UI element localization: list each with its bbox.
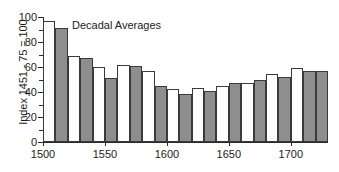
bar-1650 xyxy=(229,83,241,142)
bar-1690 xyxy=(278,77,290,142)
chart-annotation: Decadal Averages xyxy=(72,19,161,31)
bar-1560 xyxy=(117,65,129,143)
bar-1610 xyxy=(179,94,191,142)
x-tick-1550 xyxy=(105,142,106,146)
x-tick-label-1600: 1600 xyxy=(155,148,179,160)
plot-area: 020406080100 15001550160016501700 xyxy=(43,17,328,142)
bar-1530 xyxy=(80,58,92,142)
x-tick-1600 xyxy=(167,142,168,146)
bar-1510 xyxy=(55,28,67,142)
x-tick-label-1500: 1500 xyxy=(31,148,55,160)
bar-1570 xyxy=(130,66,142,142)
y-tick-label-20: 20 xyxy=(25,112,37,123)
bar-1600 xyxy=(167,89,179,142)
bar-1620 xyxy=(192,88,204,142)
y-tick-label-0: 0 xyxy=(31,137,37,148)
y-tick-label-80: 80 xyxy=(25,37,37,48)
bar-1680 xyxy=(266,74,278,142)
x-tick-1650 xyxy=(229,142,230,146)
bar-1630 xyxy=(204,91,216,142)
decadal-averages-bar-chart: Index 1451 - 75 = 100 020406080100 15001… xyxy=(0,0,339,172)
x-tick-1500 xyxy=(43,142,44,146)
x-axis-line xyxy=(43,142,328,143)
bar-1700 xyxy=(291,68,303,142)
bar-1710 xyxy=(303,71,315,142)
bar-series xyxy=(43,17,328,142)
bar-1540 xyxy=(93,67,105,142)
bar-1580 xyxy=(142,71,154,142)
bar-1500 xyxy=(43,21,55,142)
bar-1720 xyxy=(316,71,328,142)
bar-1520 xyxy=(68,56,80,142)
x-tick-1700 xyxy=(291,142,292,146)
bar-1660 xyxy=(241,83,253,142)
x-tick-label-1650: 1650 xyxy=(217,148,241,160)
x-tick-label-1700: 1700 xyxy=(279,148,303,160)
bar-1590 xyxy=(155,86,167,142)
bar-1550 xyxy=(105,78,117,142)
y-tick-label-40: 40 xyxy=(25,87,37,98)
bar-1640 xyxy=(216,86,228,142)
bar-1670 xyxy=(254,80,266,142)
y-tick-label-100: 100 xyxy=(19,12,37,23)
x-tick-label-1550: 1550 xyxy=(93,148,117,160)
y-tick-label-60: 60 xyxy=(25,62,37,73)
